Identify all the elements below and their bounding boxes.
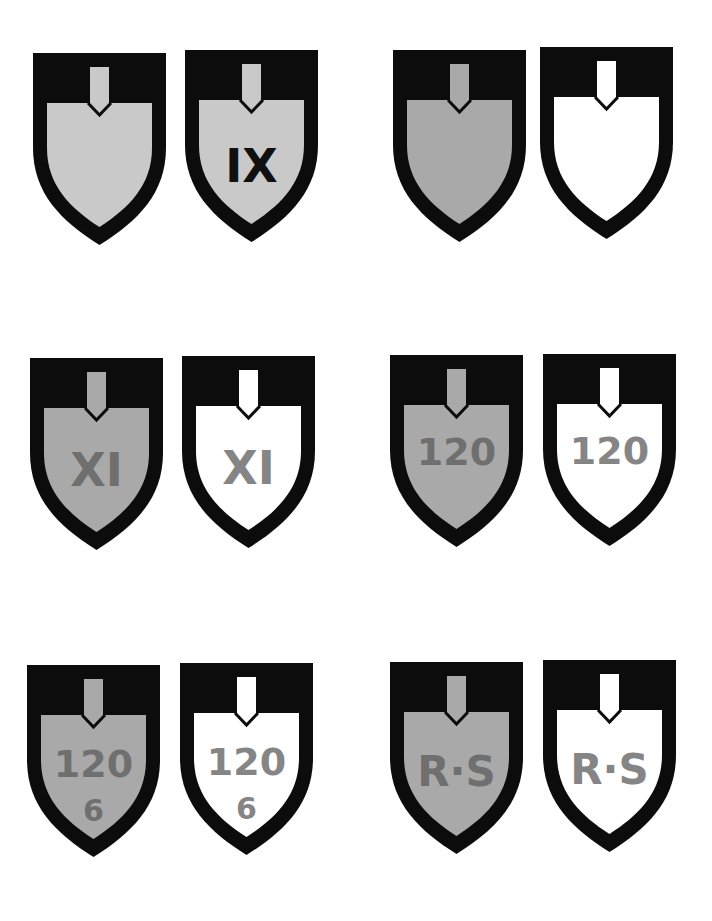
shovel-shield-icon: R·S	[543, 660, 676, 852]
shovel-shield-icon	[393, 50, 526, 242]
badge-120-white: 120	[543, 354, 676, 546]
badge-subnumber: 6	[236, 791, 257, 826]
badge-rs-white: R·S	[543, 660, 676, 852]
badge-xi-gray: XI	[30, 358, 163, 550]
shovel-shield-icon: IX	[185, 50, 318, 242]
shovel-shield-icon: 120 6	[180, 663, 313, 855]
shovel-shield-icon: XI	[30, 358, 163, 550]
badge-rs-gray: R·S	[390, 662, 523, 854]
shovel-shield-icon: XI	[182, 356, 315, 548]
badge-numeral: IX	[225, 139, 278, 193]
badge-number: 120	[207, 740, 286, 784]
shovel-shield-icon	[540, 47, 673, 239]
badge-number: 120	[54, 742, 133, 786]
badge-plain-mid-gray	[393, 50, 526, 242]
badge-120-6-gray: 120 6	[27, 665, 160, 857]
shovel-shield-icon: 120 6	[27, 665, 160, 857]
badge-plain-white	[540, 47, 673, 239]
badge-number: 120	[417, 430, 496, 474]
badge-letters: R·S	[417, 747, 496, 796]
badge-subnumber: 6	[83, 793, 104, 828]
badge-ix-light-gray: IX	[185, 50, 318, 242]
badge-numeral: XI	[70, 443, 123, 497]
shovel-shield-icon: 120	[390, 355, 523, 547]
badge-120-gray: 120	[390, 355, 523, 547]
badge-120-6-white: 120 6	[180, 663, 313, 855]
shovel-shield-icon	[33, 53, 166, 245]
badge-plain-light-gray	[33, 53, 166, 245]
badge-number: 120	[570, 429, 649, 473]
badge-xi-white: XI	[182, 356, 315, 548]
badge-letters: R·S	[570, 745, 649, 794]
shovel-shield-icon: R·S	[390, 662, 523, 854]
shovel-shield-icon: 120	[543, 354, 676, 546]
badge-numeral: XI	[222, 441, 275, 495]
